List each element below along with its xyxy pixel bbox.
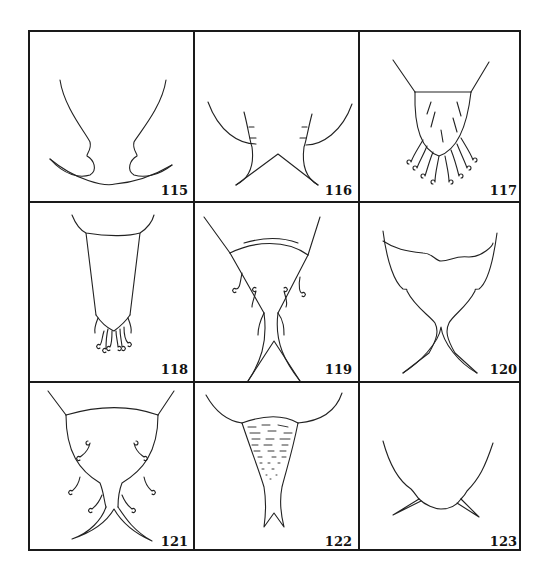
figure-122: 122: [194, 383, 358, 553]
figure-118: 118: [30, 203, 194, 381]
figure-119-drawing: [194, 203, 358, 381]
figure-121-drawing: [30, 383, 194, 553]
figure-number-label: 117: [490, 183, 517, 198]
figure-118-drawing: [30, 203, 194, 381]
figure-115-drawing: [30, 32, 194, 202]
figure-123-drawing: [359, 383, 523, 553]
figure-number-label: 118: [161, 362, 188, 377]
figure-123: 123: [359, 383, 523, 553]
figure-119: 119: [194, 203, 358, 381]
figure-120-drawing: [359, 203, 523, 381]
figure-number-label: 119: [325, 362, 352, 377]
figure-plate: 115 116 117: [28, 30, 521, 551]
figure-117-drawing: [359, 32, 523, 202]
figure-number-label: 120: [490, 362, 517, 377]
figure-117: 117: [359, 32, 523, 202]
figure-116: 116: [194, 32, 358, 202]
figure-number-label: 121: [161, 534, 188, 549]
figure-number-label: 123: [490, 534, 517, 549]
figure-number-label: 115: [161, 183, 188, 198]
figure-121: 121: [30, 383, 194, 553]
figure-number-label: 122: [325, 534, 352, 549]
figure-number-label: 116: [325, 183, 352, 198]
figure-116-drawing: [194, 32, 358, 202]
figure-115: 115: [30, 32, 194, 202]
figure-122-drawing: [194, 383, 358, 553]
figure-120: 120: [359, 203, 523, 381]
